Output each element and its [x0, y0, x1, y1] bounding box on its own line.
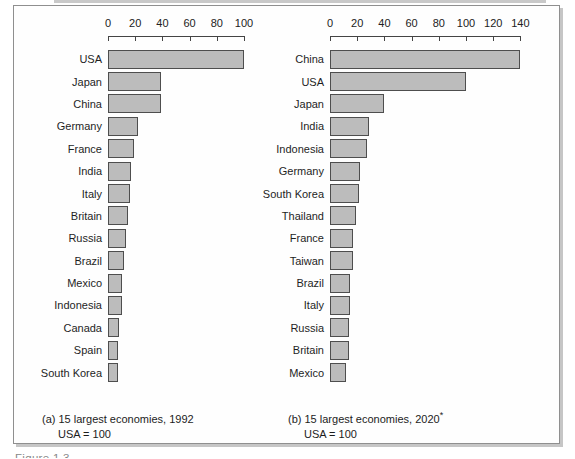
- bar-row: France: [250, 227, 550, 249]
- category-label: Russia: [250, 322, 330, 334]
- category-label: Brazil: [250, 277, 330, 289]
- caption-title-2020: (b) 15 largest economies, 2020*: [288, 412, 550, 427]
- category-label: India: [250, 120, 330, 132]
- bar: [330, 94, 384, 113]
- bar-row: France: [28, 138, 283, 160]
- caption-1992: (a) 15 largest economies, 1992 USA = 100: [42, 412, 283, 442]
- category-label: Germany: [28, 120, 108, 132]
- bar-track: [330, 50, 550, 69]
- bar: [330, 184, 359, 203]
- category-label: South Korea: [28, 367, 108, 379]
- bar-row: USA: [250, 70, 550, 92]
- axis-tick-label: 120: [484, 17, 502, 29]
- category-label: South Korea: [250, 188, 330, 200]
- axis-line: [330, 36, 520, 37]
- category-label: France: [28, 143, 108, 155]
- caption-2020: (b) 15 largest economies, 2020* USA = 10…: [288, 412, 550, 442]
- bar-track: [330, 139, 550, 158]
- bar-track: [330, 94, 550, 113]
- bar-chart-1992: 020406080100 USAJapanChinaGermanyFranceI…: [28, 16, 283, 442]
- page: { "figure": { "partial_text_bottom": "Fi…: [0, 0, 575, 459]
- bar-row: USA: [28, 48, 283, 70]
- bar: [108, 184, 130, 203]
- bar-row: Taiwan: [250, 250, 550, 272]
- caption-subtitle-1992: USA = 100: [42, 427, 283, 442]
- axis-tick-label: 60: [183, 17, 195, 29]
- bar-track: [330, 184, 550, 203]
- bar-row: China: [250, 48, 550, 70]
- bar: [330, 318, 349, 337]
- bar-row: Italy: [250, 294, 550, 316]
- bar-track: [330, 296, 550, 315]
- axis-tick-label: 40: [378, 17, 390, 29]
- bar-row: Mexico: [250, 361, 550, 383]
- bar-chart-2020: 020406080100120140 ChinaUSAJapanIndiaInd…: [250, 16, 550, 442]
- bar: [330, 139, 367, 158]
- bar-track: [330, 341, 550, 360]
- caption-subtitle-2020: USA = 100: [288, 427, 550, 442]
- bar-row: Britain: [28, 205, 283, 227]
- cut-off-figure-caption: Figure 1.3: [15, 451, 70, 458]
- bar: [330, 229, 353, 248]
- bar: [330, 296, 350, 315]
- scan-artifact-strip: [54, 0, 546, 3]
- bar-row: South Korea: [250, 182, 550, 204]
- category-label: Japan: [250, 98, 330, 110]
- category-label: Germany: [250, 165, 330, 177]
- bar: [330, 162, 360, 181]
- category-label: France: [250, 232, 330, 244]
- category-label: Russia: [28, 232, 108, 244]
- category-label: Brazil: [28, 255, 108, 267]
- bar-row: South Korea: [28, 361, 283, 383]
- x-axis-1992: 020406080100: [108, 16, 244, 46]
- bar: [330, 72, 466, 91]
- bar-row: Indonesia: [250, 138, 550, 160]
- category-label: Japan: [28, 76, 108, 88]
- bar-row: Mexico: [28, 272, 283, 294]
- bar: [108, 229, 126, 248]
- category-label: Canada: [28, 322, 108, 334]
- bar: [108, 251, 124, 270]
- bar: [330, 206, 356, 225]
- bar-rows-2020: ChinaUSAJapanIndiaIndonesiaGermanySouth …: [250, 48, 550, 384]
- bar: [108, 162, 131, 181]
- category-label: China: [28, 98, 108, 110]
- caption-title-text: (a) 15 largest economies, 1992: [42, 413, 194, 425]
- category-label: Indonesia: [28, 299, 108, 311]
- bar: [330, 274, 350, 293]
- category-label: Mexico: [28, 277, 108, 289]
- category-label: Spain: [28, 344, 108, 356]
- bar: [108, 50, 244, 69]
- bar-row: Italy: [28, 182, 283, 204]
- caption-title-1992: (a) 15 largest economies, 1992: [42, 412, 283, 427]
- axis-tick-label: 100: [457, 17, 475, 29]
- bar: [330, 363, 346, 382]
- bar: [108, 94, 161, 113]
- bar-row: Canada: [28, 317, 283, 339]
- bar: [108, 206, 128, 225]
- bar-row: Brazil: [250, 272, 550, 294]
- caption-title-text: (b) 15 largest economies, 2020: [288, 413, 440, 425]
- axis-tick-label: 0: [105, 17, 111, 29]
- bar-rows-1992: USAJapanChinaGermanyFranceIndiaItalyBrit…: [28, 48, 283, 384]
- bar-track: [330, 206, 550, 225]
- bar: [108, 274, 122, 293]
- bar-track: [330, 117, 550, 136]
- bar-row: Germany: [28, 115, 283, 137]
- category-label: Britain: [28, 210, 108, 222]
- caption-superscript: *: [440, 410, 444, 420]
- category-label: India: [28, 165, 108, 177]
- axis-tick-mark: [244, 36, 245, 41]
- axis-tick-mark: [520, 36, 521, 41]
- bar-track: [330, 274, 550, 293]
- category-label: Indonesia: [250, 143, 330, 155]
- bar: [108, 318, 119, 337]
- axis-tick-label: 20: [129, 17, 141, 29]
- category-label: Italy: [250, 299, 330, 311]
- category-label: Mexico: [250, 367, 330, 379]
- bar-track: [330, 318, 550, 337]
- category-label: Italy: [28, 188, 108, 200]
- bar: [330, 117, 369, 136]
- bar-track: [330, 162, 550, 181]
- bar-row: Germany: [250, 160, 550, 182]
